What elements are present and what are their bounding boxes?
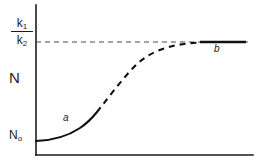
curve-label-b: b xyxy=(214,44,220,54)
fraction-bar xyxy=(11,31,33,32)
asymptote-value-label: k1 k2 xyxy=(8,17,36,46)
curve-segment-dashed xyxy=(97,43,200,113)
figure-container: k1 k2 N No a b xyxy=(0,0,276,164)
sigmoid-growth-plot xyxy=(0,0,276,164)
y-axis-title: N xyxy=(9,70,20,85)
initial-value-label: No xyxy=(9,129,22,141)
asymptote-denominator: k2 xyxy=(8,33,36,46)
curve-label-a: a xyxy=(63,113,69,123)
asymptote-numerator: k1 xyxy=(8,17,36,30)
